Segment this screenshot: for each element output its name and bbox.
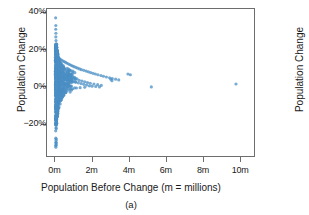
- panel-b-y-tick-0: 4: [302, 12, 309, 21]
- x-tick-label-1: 2m: [72, 165, 112, 175]
- x-tick-label-2: 4m: [109, 165, 149, 175]
- y-axis-title: Population Change: [16, 5, 27, 135]
- panel-b-y-axis-title: Population Change: [294, 5, 305, 135]
- chart-panel-b-clipped: Population Change 4 2 −2: [262, 0, 309, 215]
- x-tick-label-5: 10m: [220, 165, 260, 175]
- x-tick-label-0: 0m: [34, 165, 74, 175]
- x-tick-mark-4: [203, 157, 204, 162]
- panel-caption: (a): [0, 199, 262, 210]
- panel-b-y-tick-2: −2: [302, 128, 309, 137]
- x-tick-label-3: 6m: [146, 165, 186, 175]
- x-tick-mark-5: [240, 157, 241, 162]
- scatter-plot-points: [47, 9, 254, 156]
- panel-b-y-tick-1: 2: [302, 48, 309, 57]
- chart-panel-a: 40%20%0%−20% Population Change 0m2m4m6m8…: [0, 0, 262, 215]
- plot-area: [46, 8, 255, 157]
- x-tick-mark-3: [166, 157, 167, 162]
- x-tick-label-4: 8m: [183, 165, 223, 175]
- figure-root: 40%20%0%−20% Population Change 0m2m4m6m8…: [0, 0, 309, 215]
- x-tick-mark-0: [54, 157, 55, 162]
- x-tick-mark-1: [92, 157, 93, 162]
- x-tick-mark-2: [129, 157, 130, 162]
- x-axis-title: Population Before Change (m = millions): [0, 182, 262, 193]
